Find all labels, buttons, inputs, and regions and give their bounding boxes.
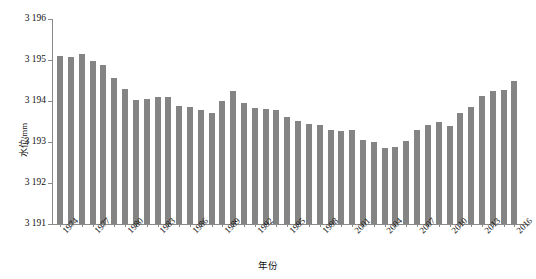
x-tick-mark bbox=[212, 224, 213, 227]
bar[interactable] bbox=[144, 99, 150, 224]
bar[interactable] bbox=[436, 122, 442, 224]
x-axis-title: 年份 bbox=[0, 258, 536, 272]
bar[interactable] bbox=[176, 106, 182, 224]
bar[interactable] bbox=[273, 110, 279, 224]
y-tick-label: 3 196 bbox=[25, 14, 46, 24]
bar[interactable] bbox=[425, 125, 431, 224]
bar[interactable] bbox=[501, 90, 507, 224]
bar[interactable] bbox=[284, 117, 290, 224]
bar[interactable] bbox=[349, 130, 355, 224]
bar[interactable] bbox=[209, 113, 215, 224]
bar[interactable] bbox=[90, 61, 96, 224]
bar[interactable] bbox=[338, 131, 344, 224]
bar[interactable] bbox=[317, 125, 323, 224]
chart-figure: 水位/mm 3 1963 1953 1943 1933 1923 191 197… bbox=[0, 0, 536, 279]
x-tick-mark bbox=[406, 224, 407, 227]
plot-area: 3 1963 1953 1943 1933 1923 191 bbox=[52, 19, 530, 224]
bar[interactable] bbox=[414, 130, 420, 224]
x-tick-mark bbox=[504, 224, 505, 227]
bar[interactable] bbox=[122, 89, 128, 224]
bar[interactable] bbox=[79, 54, 85, 224]
bar[interactable] bbox=[457, 113, 463, 224]
x-tick-mark bbox=[114, 224, 115, 227]
bar[interactable] bbox=[392, 147, 398, 224]
x-tick-mark bbox=[147, 224, 148, 227]
x-tick-mark bbox=[244, 224, 245, 227]
bar[interactable] bbox=[241, 103, 247, 224]
y-tick-mark bbox=[48, 19, 52, 20]
bar[interactable] bbox=[306, 124, 312, 224]
y-tick-label: 3 191 bbox=[25, 219, 46, 229]
bar[interactable] bbox=[198, 110, 204, 224]
bar[interactable] bbox=[447, 126, 453, 224]
x-tick-mark bbox=[82, 224, 83, 227]
y-tick-label: 3 192 bbox=[25, 178, 46, 188]
bar[interactable] bbox=[403, 141, 409, 224]
x-tick-mark bbox=[374, 224, 375, 227]
y-tick-mark bbox=[48, 60, 52, 61]
x-tick-mark bbox=[309, 224, 310, 227]
bar[interactable] bbox=[360, 140, 366, 224]
x-tick-mark bbox=[439, 224, 440, 227]
bar[interactable] bbox=[479, 96, 485, 224]
bar[interactable] bbox=[230, 91, 236, 224]
bar[interactable] bbox=[68, 57, 74, 224]
bar[interactable] bbox=[295, 121, 301, 224]
y-tick-label: 3 195 bbox=[25, 55, 46, 65]
bar[interactable] bbox=[511, 81, 517, 225]
bar[interactable] bbox=[371, 142, 377, 224]
y-tick-label: 3 194 bbox=[25, 96, 46, 106]
y-tick-label: 3 193 bbox=[25, 137, 46, 147]
bar[interactable] bbox=[252, 108, 258, 224]
bar[interactable] bbox=[133, 100, 139, 224]
x-tick-mark bbox=[471, 224, 472, 227]
bar[interactable] bbox=[219, 101, 225, 224]
bar[interactable] bbox=[328, 130, 334, 224]
bar[interactable] bbox=[490, 91, 496, 224]
bar[interactable] bbox=[382, 148, 388, 224]
y-tick-mark bbox=[48, 224, 52, 225]
x-tick-mark bbox=[276, 224, 277, 227]
bar[interactable] bbox=[165, 97, 171, 224]
bar[interactable] bbox=[155, 97, 161, 224]
y-tick-mark bbox=[48, 183, 52, 184]
bar[interactable] bbox=[187, 107, 193, 224]
x-tick-mark bbox=[179, 224, 180, 227]
bar[interactable] bbox=[263, 109, 269, 224]
bar[interactable] bbox=[468, 107, 474, 224]
bar[interactable] bbox=[57, 56, 63, 224]
x-tick-mark bbox=[341, 224, 342, 227]
bar[interactable] bbox=[100, 65, 106, 224]
y-tick-mark bbox=[48, 101, 52, 102]
bar[interactable] bbox=[111, 78, 117, 224]
y-tick-mark bbox=[48, 142, 52, 143]
